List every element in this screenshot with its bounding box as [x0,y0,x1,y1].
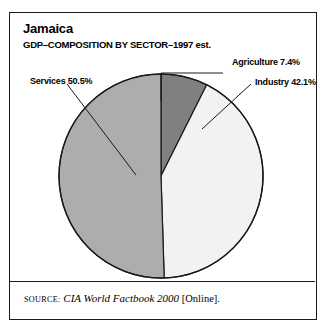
source-medium: [Online]. [182,293,220,304]
source-label: Source: [24,295,61,304]
source-note: Source: CIA World Factbook 2000 [Online]… [24,292,220,304]
source-divider [10,281,315,282]
pie-slice-group [59,74,263,278]
source-work-title: CIA World Factbook 2000 [63,292,179,304]
figure-panel: Jamaica GDP–COMPOSITION BY SECTOR–1997 e… [9,12,317,320]
pie-slice-services [59,74,164,278]
pie-chart [10,13,318,321]
